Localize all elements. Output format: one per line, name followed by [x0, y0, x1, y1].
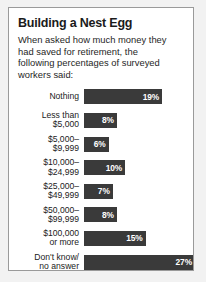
- bar-value-label: 15%: [126, 233, 142, 243]
- bar: 15%: [84, 231, 146, 246]
- bar-category-label: $25,000–$49,999: [18, 182, 84, 201]
- chart-row: $10,000–$24,99910%: [18, 160, 184, 175]
- infographic-card: Building a Nest Egg When asked how much …: [8, 7, 194, 271]
- bar-track: 7%: [84, 184, 184, 199]
- bar-track: 19%: [84, 89, 184, 104]
- bar-category-label: Nothing: [18, 92, 84, 101]
- bar: 27%: [84, 255, 194, 270]
- chart-row: Less than$5,0008%: [18, 113, 184, 128]
- chart-row: Don't know/no answer27%: [18, 255, 184, 270]
- chart-row: $100,000or more15%: [18, 231, 184, 246]
- bar-category-label-line: Nothing: [18, 92, 79, 101]
- bar-category-label-line: $24,999: [18, 168, 79, 177]
- bar-category-label: $100,000or more: [18, 229, 84, 248]
- bar-category-label-line: $99,999: [18, 215, 79, 224]
- card-content: Building a Nest Egg When asked how much …: [9, 8, 193, 270]
- bar-value-label: 10%: [106, 163, 122, 173]
- bar-category-label: $50,000–$99,999: [18, 206, 84, 225]
- bar-track: 6%: [84, 137, 184, 152]
- bar: 19%: [84, 89, 162, 104]
- bar: 8%: [84, 113, 117, 128]
- subtitle-line: When asked how much money they: [18, 34, 184, 46]
- bar-track: 27%: [84, 255, 194, 270]
- bar-value-label: 19%: [143, 92, 159, 102]
- bar-category-label: Don't know/no answer: [18, 253, 84, 271]
- chart-row: $5,000–$9,9996%: [18, 137, 184, 152]
- bar-track: 15%: [84, 231, 184, 246]
- subtitle-line: following percentages of surveyed: [18, 57, 184, 69]
- bar-category-label-line: no answer: [18, 262, 79, 271]
- bar-value-label: 6%: [94, 139, 106, 149]
- bar-category-label-line: or more: [18, 238, 79, 247]
- bar: 8%: [84, 207, 117, 222]
- chart-row: $50,000–$99,9998%: [18, 207, 184, 222]
- bar: 10%: [84, 160, 125, 175]
- bar-track: 8%: [84, 207, 184, 222]
- bar-chart: Nothing19%Less than$5,0008%$5,000–$9,999…: [18, 89, 184, 269]
- bar-value-label: 7%: [98, 186, 110, 196]
- bar-value-label: 27%: [176, 257, 192, 267]
- bar-category-label: Less than$5,000: [18, 111, 84, 130]
- chart-row: $25,000–$49,9997%: [18, 184, 184, 199]
- bar: 7%: [84, 184, 113, 199]
- chart-row: Nothing19%: [18, 89, 184, 104]
- bar: 6%: [84, 137, 109, 152]
- page-title: Building a Nest Egg: [18, 17, 184, 30]
- bar-category-label-line: $5,000: [18, 120, 79, 129]
- bar-value-label: 8%: [102, 115, 114, 125]
- subtitle-line: workers said:: [18, 69, 184, 81]
- bar-category-label: $10,000–$24,999: [18, 158, 84, 177]
- bar-track: 8%: [84, 113, 184, 128]
- bar-value-label: 8%: [102, 210, 114, 220]
- chart-subtitle: When asked how much money they had saved…: [18, 34, 184, 80]
- bar-category-label: $5,000–$9,999: [18, 135, 84, 154]
- bar-category-label-line: $9,999: [18, 144, 79, 153]
- subtitle-line: had saved for retirement, the: [18, 46, 184, 58]
- bar-category-label-line: $49,999: [18, 191, 79, 200]
- bar-track: 10%: [84, 160, 184, 175]
